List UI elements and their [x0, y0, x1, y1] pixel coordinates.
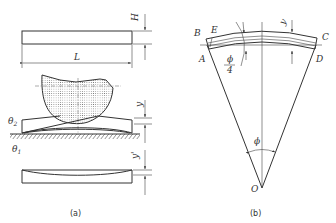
caption-b: (b) — [250, 209, 261, 218]
label-phi: ϕ — [254, 136, 260, 146]
radial-line-right — [262, 45, 316, 188]
label-A: A — [198, 54, 206, 64]
label-y-prime: y' — [130, 151, 140, 160]
rebound-plate — [22, 170, 132, 183]
arc-outer-BC — [206, 31, 317, 39]
label-H: H — [130, 13, 140, 22]
flat-plate — [22, 31, 132, 44]
label-E: E — [210, 25, 218, 35]
label-O: O — [251, 184, 259, 194]
label-L: L — [73, 52, 80, 62]
label-theta1: θ1 — [12, 144, 21, 155]
panel-b: B E C A D y ϕ 4 ϕ O (b) — [193, 16, 329, 218]
label-D: D — [315, 54, 323, 64]
caption-a: (a) — [70, 209, 81, 218]
label-y: y — [277, 16, 289, 27]
label-theta2: θ2 — [8, 116, 17, 127]
label-B: B — [193, 28, 201, 38]
label-y: y — [134, 101, 144, 108]
radial-line-left — [207, 45, 262, 188]
label-phi-quarter-den: 4 — [226, 65, 233, 75]
panel-a: L H y θ2 θ1 y' — [8, 13, 152, 218]
figure-canvas: L H y θ2 θ1 y' — [0, 0, 336, 223]
label-C: C — [322, 32, 329, 42]
label-phi-quarter-num: ϕ — [227, 54, 233, 64]
